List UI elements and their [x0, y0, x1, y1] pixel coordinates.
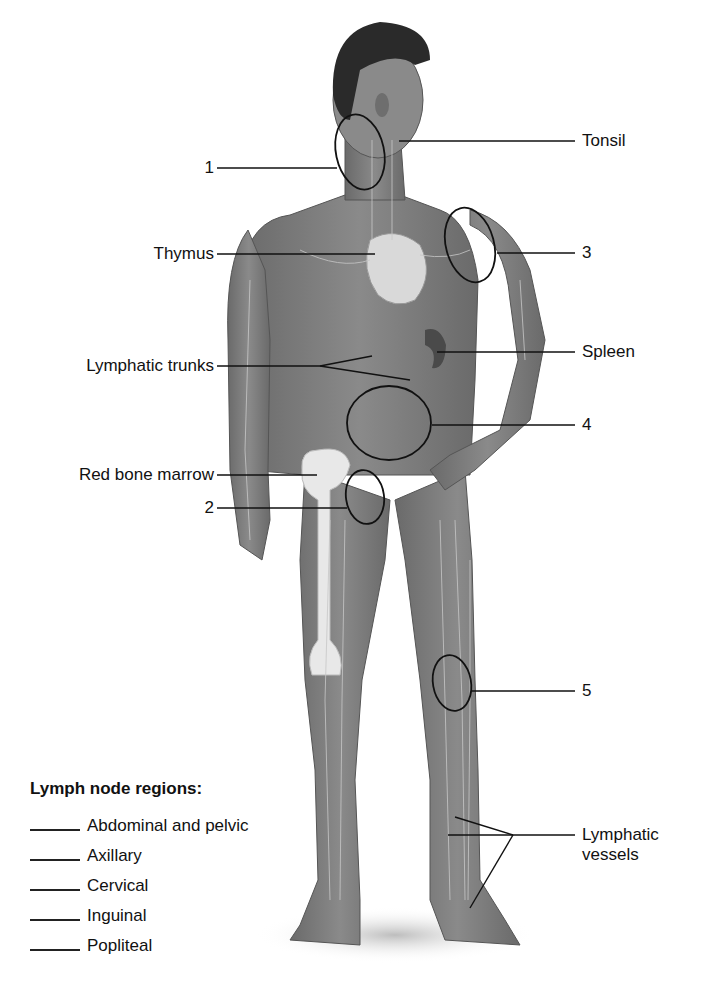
- label-2: 2: [205, 498, 214, 518]
- ear: [375, 93, 389, 117]
- label-4: 4: [582, 415, 591, 435]
- answer-blank[interactable]: [30, 949, 80, 951]
- legend-item-label: Popliteal: [87, 936, 152, 956]
- label-lymphatic-vessels-line1: Lymphatic: [582, 825, 659, 845]
- label-thymus: Thymus: [154, 244, 214, 264]
- label-tonsil: Tonsil: [582, 131, 625, 151]
- legend-item-inguinal: Inguinal: [30, 896, 249, 926]
- legend-item-abdominal-pelvic: Abdominal and pelvic: [30, 806, 249, 836]
- label-red-bone-marrow: Red bone marrow: [79, 465, 214, 485]
- label-lymphatic-vessels: Lymphatic vessels: [582, 825, 659, 865]
- legend-item-label: Axillary: [87, 846, 142, 866]
- legend-item-cervical: Cervical: [30, 866, 249, 896]
- label-1: 1: [205, 158, 214, 178]
- answer-blank[interactable]: [30, 919, 80, 921]
- lymph-node-regions-legend: Lymph node regions: Abdominal and pelvic…: [30, 778, 249, 956]
- label-3: 3: [582, 243, 591, 263]
- label-lymphatic-trunks: Lymphatic trunks: [86, 356, 214, 376]
- answer-blank[interactable]: [30, 859, 80, 861]
- label-5: 5: [582, 681, 591, 701]
- legend-item-label: Abdominal and pelvic: [87, 816, 249, 836]
- label-lymphatic-vessels-line2: vessels: [582, 845, 659, 865]
- label-spleen: Spleen: [582, 342, 635, 362]
- legend-item-axillary: Axillary: [30, 836, 249, 866]
- legend-item-label: Cervical: [87, 876, 148, 896]
- legend-item-popliteal: Popliteal: [30, 926, 249, 956]
- answer-blank[interactable]: [30, 889, 80, 891]
- legend-title: Lymph node regions:: [30, 778, 249, 800]
- legend-item-label: Inguinal: [87, 906, 147, 926]
- answer-blank[interactable]: [30, 829, 80, 831]
